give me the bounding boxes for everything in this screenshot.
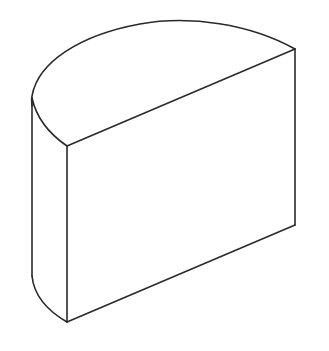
top-left-curve-edge — [32, 98, 67, 146]
top-diameter-edge — [67, 49, 295, 146]
bottom-curved-edge — [32, 276, 67, 322]
half-cylinder-figure — [0, 0, 329, 351]
bottom-diameter-edge — [67, 225, 295, 322]
half-cylinder-drawing — [0, 0, 329, 351]
top-curved-edge — [32, 21, 295, 106]
